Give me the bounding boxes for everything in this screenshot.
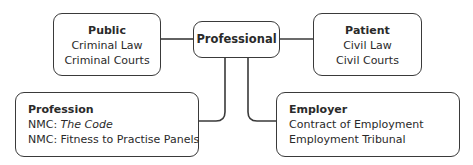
the-code-title: The Code [61, 118, 113, 131]
employer-box: Employer Contract of Employment Employme… [276, 92, 460, 157]
professional-title: Professional [194, 32, 279, 47]
connector-professional-employer [248, 58, 276, 121]
professional-box: Professional [193, 21, 280, 58]
patient-box: Patient Civil Law Civil Courts [313, 13, 422, 76]
public-box: Public Criminal Law Criminal Courts [53, 13, 161, 76]
profession-box: Profession NMC: The Code NMC: Fitness to… [15, 92, 199, 157]
patient-line-1: Civil Law [314, 38, 421, 53]
public-line-1: Criminal Law [54, 38, 160, 53]
profession-line-1-prefix: NMC: [28, 118, 61, 131]
employer-title: Employer [289, 102, 459, 117]
employer-line-2: Employment Tribunal [289, 132, 459, 147]
employer-line-1: Contract of Employment [289, 117, 459, 132]
profession-line-1: NMC: The Code [28, 117, 198, 132]
patient-line-2: Civil Courts [314, 53, 421, 68]
public-title: Public [54, 23, 160, 38]
public-line-2: Criminal Courts [54, 53, 160, 68]
profession-line-2: NMC: Fitness to Practise Panels [28, 132, 198, 147]
patient-title: Patient [314, 23, 421, 38]
profession-title: Profession [28, 102, 198, 117]
connector-professional-profession [199, 58, 225, 121]
